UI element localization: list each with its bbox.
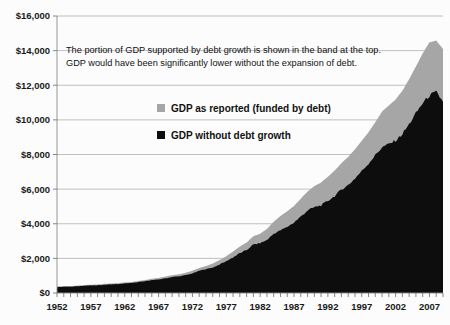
x-tick-label: 1962 [114, 301, 135, 312]
x-tick-label: 1957 [80, 301, 101, 312]
x-tick-label: 1987 [283, 301, 304, 312]
y-tick-label: $10,000 [16, 114, 50, 125]
y-tick-label: $2,000 [21, 253, 50, 264]
x-axis-tick-marks [57, 293, 443, 297]
area-series-group [57, 41, 443, 293]
annotation-line-1: The portion of GDP supported by debt gro… [66, 45, 381, 55]
x-tick-label: 1992 [317, 301, 338, 312]
y-tick-label: $14,000 [16, 45, 50, 56]
x-tick-label: 1952 [46, 301, 67, 312]
legend-swatch-gdp-as-reported [157, 104, 165, 112]
y-tick-label: $12,000 [16, 80, 50, 91]
x-tick-label: 1982 [250, 301, 271, 312]
gdp-area-chart: $0$2,000$4,000$6,000$8,000$10,000$12,000… [0, 0, 450, 325]
legend-swatch-gdp-without-debt [157, 131, 165, 139]
x-tick-label: 1977 [216, 301, 237, 312]
y-tick-label: $4,000 [21, 218, 50, 229]
x-tick-label: 2007 [419, 301, 440, 312]
chart-container: $0$2,000$4,000$6,000$8,000$10,000$12,000… [0, 0, 450, 325]
legend-label-gdp-without-debt: GDP without debt growth [171, 130, 291, 141]
x-tick-label: 1972 [182, 301, 203, 312]
x-tick-label: 1967 [148, 301, 169, 312]
x-tick-label: 2002 [385, 301, 406, 312]
y-tick-label: $6,000 [21, 184, 50, 195]
x-axis-tick-labels: 1952195719621967197219771982198719921997… [46, 301, 440, 312]
y-axis-tick-labels: $0$2,000$4,000$6,000$8,000$10,000$12,000… [16, 10, 57, 298]
y-tick-label: $16,000 [16, 10, 50, 21]
x-tick-label: 1997 [351, 301, 372, 312]
y-tick-label: $0 [39, 287, 50, 298]
y-tick-label: $8,000 [21, 149, 50, 160]
legend-label-gdp-as-reported: GDP as reported (funded by debt) [171, 103, 331, 114]
annotation-line-2: GDP would have been significantly lower … [66, 58, 357, 68]
